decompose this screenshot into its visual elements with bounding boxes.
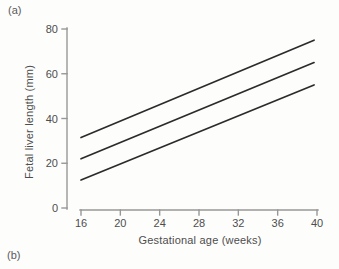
line-chart: 16202428323640020406080 bbox=[0, 0, 339, 269]
x-tick-label: 16 bbox=[75, 217, 87, 229]
y-tick-label: 0 bbox=[52, 202, 58, 214]
y-tick-label: 80 bbox=[46, 23, 58, 35]
y-tick-label: 20 bbox=[46, 157, 58, 169]
y-tick-label: 60 bbox=[46, 68, 58, 80]
series-lower-line bbox=[81, 85, 314, 180]
x-tick-label: 32 bbox=[232, 217, 244, 229]
x-tick-label: 36 bbox=[272, 217, 284, 229]
series-middle-line bbox=[81, 63, 314, 159]
figure-panel: (a) (b) Fetal liver length (mm) Gestatio… bbox=[0, 0, 339, 269]
x-tick-label: 40 bbox=[311, 217, 323, 229]
y-tick-label: 40 bbox=[46, 113, 58, 125]
x-tick-label: 24 bbox=[154, 217, 166, 229]
series-upper-line bbox=[81, 40, 314, 137]
x-tick-label: 28 bbox=[193, 217, 205, 229]
x-tick-label: 20 bbox=[114, 217, 126, 229]
